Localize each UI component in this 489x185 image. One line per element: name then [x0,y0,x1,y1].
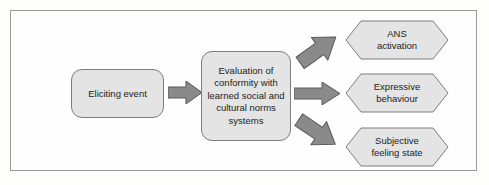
node-eliciting-event-label: Eliciting event [88,88,147,99]
node-subjective-feeling-state-label: Subjective feeling state [345,127,449,167]
node-subjective-feeling-state: Subjective feeling state [345,127,449,167]
node-evaluation-label: Evaluation of conformity with learned so… [205,65,287,128]
arrow-evaluation-to-subjective [292,109,342,155]
node-expressive-behaviour-label: Expressive behaviour [345,73,449,113]
node-eliciting-event: Eliciting event [71,69,164,118]
node-evaluation: Evaluation of conformity with learned so… [201,51,291,141]
node-expressive-behaviour: Expressive behaviour [345,73,449,113]
diagram-frame: Eliciting event Evaluation of conformity… [10,10,477,171]
arrow-eliciting-to-evaluation [168,81,202,104]
node-ans-activation: ANS activation [345,20,449,60]
diagram-canvas: Eliciting event Evaluation of conformity… [0,0,489,185]
arrow-evaluation-to-ans [294,28,342,72]
arrow-evaluation-to-expressive [294,82,342,105]
node-ans-activation-label: ANS activation [345,20,449,60]
